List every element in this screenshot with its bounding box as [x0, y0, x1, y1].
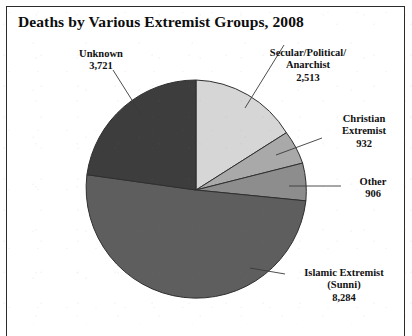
pie-slice-unknown [87, 80, 196, 190]
pie-label-unknown-name: Unknown [58, 48, 144, 60]
pie-label-islamic: Islamic Extremist (Sunni) 8,284 [288, 267, 400, 304]
pie-label-islamic-value: 8,284 [288, 292, 400, 304]
pie-label-christian: Christian Extremist 932 [327, 113, 401, 150]
pie-label-secular-value: 2,513 [245, 72, 371, 84]
pie-label-christian-line1: Christian [327, 113, 401, 125]
pie-label-secular-line2: Anarchist [245, 59, 371, 71]
pie-label-islamic-line1: Islamic Extremist [288, 267, 400, 279]
pie-label-secular-line1: Secular/Political/ [245, 47, 371, 59]
pie-label-secular: Secular/Political/ Anarchist 2,513 [245, 47, 371, 84]
pie-label-other-value: 906 [345, 188, 401, 200]
pie-label-other-name: Other [345, 176, 401, 188]
pie-label-other: Other 906 [345, 176, 401, 201]
pie-label-islamic-line2: (Sunni) [288, 279, 400, 291]
pie-label-unknown: Unknown 3,721 [58, 48, 144, 73]
pie-label-christian-value: 932 [327, 138, 401, 150]
pie-slices [86, 80, 306, 298]
pie-label-christian-line2: Extremist [327, 125, 401, 137]
pie-label-unknown-value: 3,721 [58, 60, 144, 72]
